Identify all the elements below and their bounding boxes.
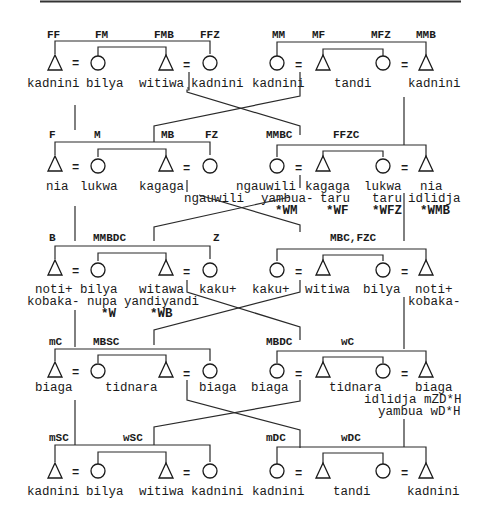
term: kadnini bbox=[252, 77, 305, 91]
male-triangle-icon bbox=[48, 463, 62, 478]
female-circle-icon bbox=[91, 263, 105, 277]
marriage-symbol: = bbox=[295, 266, 302, 280]
label-mSC: mSC bbox=[49, 432, 69, 444]
female-circle-icon bbox=[376, 364, 390, 378]
term: tandi bbox=[334, 77, 372, 91]
marriage-symbol: = bbox=[295, 59, 302, 73]
term: kadnini bbox=[27, 77, 80, 91]
row-grandparents: FF FM FMB FFZ MM MF MFZ MMB = = = = kadn… bbox=[27, 29, 461, 91]
marriage-symbol: = bbox=[183, 467, 190, 481]
term: bilya bbox=[86, 485, 124, 499]
row-children: mC MBSC MBDC wC = = = = biaga tidnara bi… bbox=[35, 336, 462, 419]
term: witiwa bbox=[139, 485, 185, 499]
sibling-line bbox=[98, 149, 166, 157]
sibling-line bbox=[323, 151, 383, 157]
female-circle-icon bbox=[376, 56, 390, 70]
term: *W bbox=[101, 307, 117, 321]
label-MBSC: MBSC bbox=[93, 336, 120, 348]
marriage-symbol: = bbox=[183, 368, 190, 382]
label-mC: mC bbox=[49, 336, 63, 348]
male-triangle-icon bbox=[419, 55, 433, 70]
marriage-symbol: = bbox=[183, 162, 190, 176]
row-grandchildren: mSC wSC mDC wDC = = = = kadnini bilya wi… bbox=[27, 432, 460, 499]
term: tandi bbox=[333, 485, 371, 499]
female-circle-icon bbox=[270, 364, 284, 378]
marriage-symbol: = bbox=[295, 368, 302, 382]
male-triangle-icon bbox=[419, 362, 433, 377]
term: kadnini bbox=[191, 77, 244, 91]
label-wC: wC bbox=[341, 336, 355, 348]
male-triangle-icon bbox=[316, 260, 330, 275]
term: witiwa bbox=[139, 77, 185, 91]
label-MFZ: MFZ bbox=[371, 29, 391, 41]
term: bilya bbox=[363, 283, 401, 297]
label-wDC: wDC bbox=[341, 432, 361, 444]
sibling-line bbox=[98, 355, 166, 363]
female-circle-icon bbox=[91, 364, 105, 378]
label-FZ: FZ bbox=[205, 129, 219, 141]
label-MBDC: MBDC bbox=[266, 336, 293, 348]
marriage-symbol: = bbox=[72, 366, 79, 380]
male-triangle-icon bbox=[316, 55, 330, 70]
label-FFZ: FFZ bbox=[200, 29, 220, 41]
label-F: F bbox=[49, 129, 56, 141]
male-triangle-icon bbox=[159, 463, 173, 478]
term: lukwa bbox=[80, 180, 118, 194]
male-triangle-icon bbox=[316, 463, 330, 478]
term: kadnini bbox=[407, 485, 460, 499]
marriage-symbol: = bbox=[183, 59, 190, 73]
male-triangle-icon bbox=[159, 362, 173, 377]
female-circle-icon bbox=[270, 263, 284, 277]
sibling-line bbox=[323, 255, 383, 261]
term: kadnini bbox=[408, 77, 461, 91]
label-FF: FF bbox=[47, 29, 60, 41]
male-triangle-icon bbox=[419, 260, 433, 275]
male-triangle-icon bbox=[48, 55, 62, 70]
marriage-symbol: = bbox=[295, 467, 302, 481]
female-circle-icon bbox=[203, 56, 217, 70]
marriage-symbol: = bbox=[72, 466, 79, 480]
female-circle-icon bbox=[203, 364, 217, 378]
term: witiwa bbox=[305, 283, 351, 297]
term: biaga bbox=[251, 381, 289, 395]
term: *WFZ bbox=[372, 204, 402, 218]
sibling-line bbox=[323, 357, 383, 363]
term: kadnini bbox=[252, 485, 305, 499]
male-triangle-icon bbox=[419, 156, 433, 171]
label-B: B bbox=[49, 232, 56, 244]
sibling-line bbox=[98, 253, 166, 261]
term: *WF bbox=[326, 204, 349, 218]
sibling-line bbox=[98, 47, 166, 56]
label-FM: FM bbox=[95, 29, 109, 41]
marriage-symbol: = bbox=[401, 59, 408, 73]
sibling-line bbox=[323, 453, 383, 464]
marriage-symbol: = bbox=[401, 162, 408, 176]
label-wSC: wSC bbox=[123, 432, 143, 444]
female-circle-icon bbox=[203, 263, 217, 277]
label-MB: MB bbox=[161, 129, 175, 141]
term: biaga bbox=[199, 381, 237, 395]
marriage-symbol: = bbox=[183, 266, 190, 280]
term: nia bbox=[46, 180, 69, 194]
male-triangle-icon bbox=[316, 362, 330, 377]
male-triangle-icon bbox=[48, 156, 62, 171]
sibling-line bbox=[323, 49, 383, 56]
male-triangle-icon bbox=[159, 260, 173, 275]
female-circle-icon bbox=[376, 464, 390, 478]
label-MF: MF bbox=[312, 29, 325, 41]
female-circle-icon bbox=[91, 464, 105, 478]
term: kagaga bbox=[139, 180, 185, 194]
female-circle-icon bbox=[91, 159, 105, 173]
marriage-symbol: = bbox=[72, 57, 79, 71]
term: kaku+ bbox=[199, 283, 237, 297]
male-triangle-icon bbox=[316, 156, 330, 171]
female-circle-icon bbox=[376, 159, 390, 173]
marriage-symbol: = bbox=[72, 161, 79, 175]
marriage-symbol: = bbox=[295, 162, 302, 176]
female-circle-icon bbox=[270, 56, 284, 70]
male-triangle-icon bbox=[48, 362, 62, 377]
term: *WM bbox=[275, 204, 298, 218]
male-triangle-icon bbox=[159, 156, 173, 171]
marriage-symbol: = bbox=[72, 265, 79, 279]
label-MBC-FZC: MBC,FZC bbox=[330, 232, 377, 244]
